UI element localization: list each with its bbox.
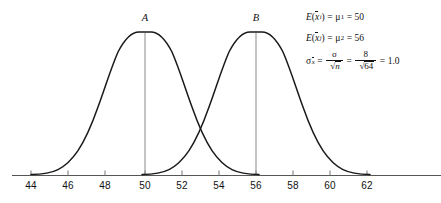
- equals-2a: =: [325, 33, 335, 43]
- equals-3c: =: [377, 56, 387, 66]
- equals-2b: =: [344, 33, 354, 43]
- x-tick-label-44: 44: [16, 180, 46, 191]
- sigma-subscript-xbar: x: [311, 58, 315, 65]
- equation-line-1: E ( x i ) = μ 1 = 50: [306, 6, 441, 27]
- axis-ticks: [31, 171, 367, 176]
- x-tick-label-56: 56: [241, 180, 271, 191]
- curve-label-b: B: [244, 12, 268, 23]
- fraction-denominator-root-n: √n: [326, 61, 342, 71]
- equation-annotations: E ( x i ) = μ 1 = 50 E ( x j ) = μ 2 = 5…: [306, 6, 441, 74]
- x-tick-label-62: 62: [352, 180, 382, 191]
- x-tick-label-46: 46: [53, 180, 83, 191]
- mean-droplines: [145, 33, 256, 175]
- equals-3a: =: [315, 56, 325, 66]
- x-tick-label-52: 52: [167, 180, 197, 191]
- fraction-numerator-sigma: σ: [329, 50, 340, 60]
- x-tick-label-48: 48: [90, 180, 120, 191]
- fraction-numerator-8: 8: [361, 50, 372, 60]
- equation-line-2: E ( x j ) = μ 2 = 56: [306, 27, 441, 48]
- radicand-n: n: [335, 62, 340, 72]
- normal-distribution-figure: A B 44 46 48 50 52 54 56 58 60 62 E ( x …: [0, 0, 441, 203]
- mu-value-1: 50: [354, 12, 364, 22]
- xbar-symbol-1: x: [315, 12, 319, 22]
- curve-label-a: A: [133, 12, 157, 23]
- fraction-denominator-root-64: √64: [355, 61, 376, 71]
- x-tick-label-58: 58: [278, 180, 308, 191]
- equals-3b: =: [344, 56, 354, 66]
- equation-line-3: σ x = σ √n = 8 √64 = 1.0: [306, 48, 441, 74]
- x-tick-label-60: 60: [315, 180, 345, 191]
- x-tick-label-54: 54: [204, 180, 234, 191]
- x-tick-label-50: 50: [130, 180, 160, 191]
- equals-1a: =: [325, 12, 335, 22]
- fraction-eight-over-root-64: 8 √64: [355, 50, 376, 71]
- axis-group: [12, 171, 441, 176]
- xbar-symbol-2: x: [315, 33, 319, 43]
- standard-error-value: 1.0: [388, 56, 400, 66]
- fraction-sigma-over-root-n: σ √n: [326, 50, 343, 71]
- equals-1b: =: [344, 12, 354, 22]
- mu-value-2: 56: [354, 33, 364, 43]
- radicand-64: 64: [364, 62, 373, 72]
